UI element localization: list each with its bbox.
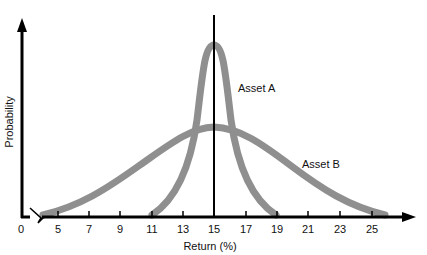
tick-label: 0 [18, 223, 24, 235]
asset-b-label: Asset B [302, 158, 340, 170]
tick-label: 17 [240, 223, 252, 235]
tick-label: 5 [55, 223, 61, 235]
tick-label: 23 [334, 223, 346, 235]
chart: 0 5 7 9 11 13 15 17 19 21 23 25 Return (… [0, 0, 427, 255]
x-tick-labels: 0 5 7 9 11 13 15 17 19 21 23 25 [18, 223, 378, 235]
y-axis-arrow-icon [17, 18, 27, 32]
tick-label: 13 [177, 223, 189, 235]
tick-label: 19 [271, 223, 283, 235]
tick-label: 15 [208, 223, 220, 235]
tick-label: 25 [366, 223, 378, 235]
x-axis-title: Return (%) [183, 240, 236, 252]
x-axis-arrow-icon [402, 212, 416, 222]
tick-label: 9 [117, 223, 123, 235]
asset-a-label: Asset A [238, 82, 276, 94]
tick-label: 7 [86, 223, 92, 235]
tick-label: 21 [302, 223, 314, 235]
tick-label: 11 [146, 223, 157, 235]
y-axis-title: Probability [3, 96, 15, 148]
